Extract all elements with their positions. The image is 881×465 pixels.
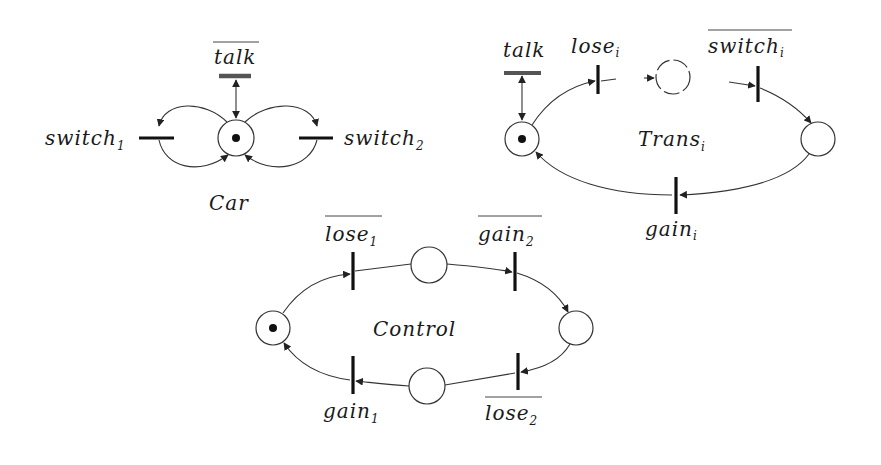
arc-top-to-switch (729, 82, 755, 86)
car-net-name: Car (209, 191, 249, 215)
gain1-label: gain1 (323, 399, 380, 426)
arc-lose2-to-bottom (445, 373, 515, 385)
arc-gain2-to-right (517, 273, 568, 312)
trans-top-place (656, 60, 690, 94)
arc-left-to-lose1 (283, 274, 350, 313)
switch1-label: switch1 (45, 126, 126, 153)
arc-bottom-to-gain1 (356, 381, 409, 386)
lose2-label: lose2 (485, 401, 538, 428)
trans-net: talk losei switchi gaini Transi (503, 30, 835, 243)
arc-switch-to-right (760, 88, 811, 123)
trans-talk-label: talk (503, 38, 545, 62)
trans-right-place (801, 122, 835, 156)
control-net-name: Control (373, 317, 456, 341)
switch2-label: switch2 (344, 126, 425, 153)
arc-gain1-to-left (284, 343, 350, 380)
lose1-label: lose1 (325, 222, 378, 249)
trans-net-name: Transi (638, 127, 706, 154)
token (269, 324, 277, 332)
petri-net-diagram: talk switch1 switch2 Car talk (0, 0, 881, 465)
arc-top-to-gain2 (447, 264, 512, 272)
gain-i-label: gaini (645, 217, 698, 243)
arc-right-to-lose2 (521, 344, 570, 372)
control-bottom-place (409, 368, 445, 404)
control-net: lose1 gain2 lose2 gain1 Control (256, 216, 593, 428)
car-talk-label: talk (214, 45, 256, 69)
token (232, 134, 240, 142)
arc-right-to-gain (680, 154, 809, 195)
lose-i-label: losei (571, 34, 620, 60)
car-net: talk switch1 switch2 Car (45, 42, 425, 215)
car-arc-to-switch1 (159, 106, 227, 126)
arc-lose-to-top (601, 79, 616, 81)
gain2-label: gain2 (478, 222, 535, 249)
control-right-place (559, 311, 593, 345)
switch-i-label: switchi (708, 34, 785, 60)
car-arc-from-switch2 (245, 140, 317, 167)
arc-left-to-lose (532, 81, 595, 125)
arc-gain-to-left (536, 152, 672, 195)
car-arc-to-switch2 (245, 106, 317, 126)
control-top-place (411, 247, 447, 283)
arc-lose1-to-top (355, 264, 411, 271)
token (518, 135, 526, 143)
car-arc-from-switch1 (159, 140, 228, 167)
